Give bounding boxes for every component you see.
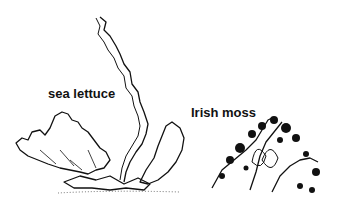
seaweed-drawing	[0, 0, 338, 213]
irish-moss-label: Irish moss	[191, 105, 256, 120]
irish-moss-drawing	[212, 116, 320, 193]
sea-lettuce-label: sea lettuce	[48, 86, 115, 101]
sea-lettuce-drawing	[16, 17, 184, 193]
seaweed-illustration: sea lettuce Irish moss	[0, 0, 338, 213]
